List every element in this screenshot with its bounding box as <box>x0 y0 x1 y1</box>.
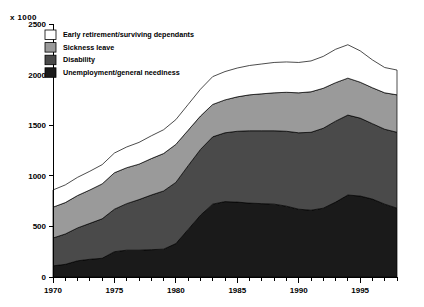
legend-label-0: Early retirement/surviving dependants <box>63 30 194 39</box>
x-tick-label: 1970 <box>44 286 62 295</box>
x-tick-label: 1985 <box>228 286 246 295</box>
x-tick-label: 1990 <box>290 286 308 295</box>
legend-swatch-2 <box>45 55 56 64</box>
x-tick-label: 1995 <box>351 286 369 295</box>
chart-legend: Early retirement/surviving dependantsSic… <box>45 30 194 77</box>
legend-swatch-3 <box>45 68 56 78</box>
legend-label-1: Sickness leave <box>63 43 114 52</box>
legend-label-3: Unemployment/general neediness <box>63 68 180 77</box>
x-tick-label: 1975 <box>106 286 124 295</box>
y-tick-label: 1000 <box>28 172 46 181</box>
legend-swatch-1 <box>45 43 56 53</box>
area-chart: x 1000 05001000150020002500 197019751980… <box>0 0 424 307</box>
y-tick-label: 1500 <box>28 121 46 130</box>
y-tick-label: 0 <box>42 273 47 282</box>
chart-canvas: 05001000150020002500 1970197519801985199… <box>0 0 424 307</box>
y-tick-label: 500 <box>33 222 47 231</box>
x-tick-label: 1980 <box>167 286 185 295</box>
y-tick-label: 2500 <box>28 20 46 29</box>
legend-swatch-0 <box>45 30 56 40</box>
legend-label-2: Disability <box>63 55 95 64</box>
stacked-areas-group <box>53 45 397 277</box>
y-tick-label: 2000 <box>28 71 46 80</box>
x-axis-ticks: 197019751980198519901995 <box>44 277 397 295</box>
